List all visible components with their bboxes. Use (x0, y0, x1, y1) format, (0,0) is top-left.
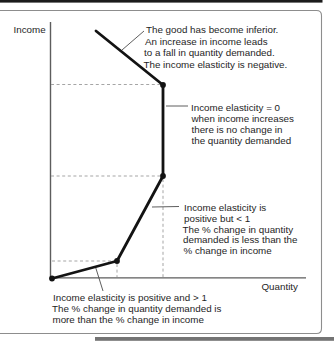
leader-positive-gt-1 (96, 267, 104, 291)
y-axis-label: Income (14, 24, 47, 35)
annotation-line: the quantity demanded (192, 135, 292, 146)
annotation-line: The % change in quantity demanded is (52, 303, 221, 314)
annotation-line: when income increases (191, 113, 294, 124)
leader-positive-lt-1 (152, 207, 179, 208)
annotation-positive-gt-1: Income elasticity is positive and > 1 Th… (52, 292, 221, 325)
leader-negative (122, 31, 144, 50)
curve-point-dot (114, 258, 120, 264)
annotation-negative: The good has become inferior. An increas… (144, 24, 288, 70)
annotation-line: demanded is less than the (183, 234, 298, 245)
annotation-line: there is no change in (192, 124, 283, 135)
annotation-zero: Income elasticity = 0 when income increa… (191, 102, 294, 147)
annotation-line: Income elasticity is positive and > 1 (53, 292, 207, 303)
annotation-line: positive but < 1 (184, 213, 250, 224)
elasticity-diagram: Income Quantity The good has become infe… (0, 0, 334, 342)
annotation-line: to a fall in quantity demanded. (144, 47, 275, 58)
annotation-line: The good has become inferior. (146, 24, 278, 35)
annotation-line: more than the % change in income (53, 314, 205, 325)
annotation-line: The % change in quantity (183, 224, 294, 235)
annotation-line: % change in income (184, 245, 273, 256)
curve-point-dot (160, 82, 166, 88)
annotation-positive-lt-1: Income elasticity is positive but < 1 Th… (183, 202, 298, 257)
top-rule (0, 0, 323, 3)
x-axis-label: Quantity (262, 281, 299, 292)
curve-point-dot (49, 276, 55, 282)
annotation-line: Income elasticity = 0 (191, 102, 281, 113)
bottom-rule (95, 337, 334, 341)
annotation-line: Income elasticity is (184, 202, 266, 213)
annotation-line: The income elasticity is negative. (144, 59, 288, 70)
curve-point-dot (160, 173, 166, 179)
annotation-line: An increase in income leads (145, 36, 268, 47)
